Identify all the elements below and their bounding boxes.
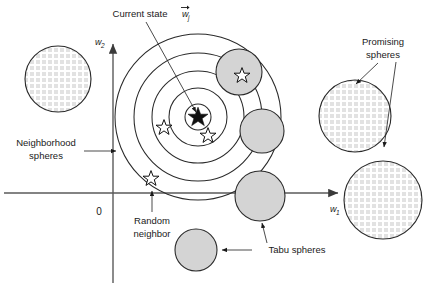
current-state-label: Current state [113, 8, 168, 19]
current-state-leader [146, 22, 196, 112]
figure-container: Current state w j Neighborhood spheres R… [0, 0, 431, 287]
neighborhood-spheres-label-line2: spheres [29, 150, 63, 161]
current-state-vector-symbol: w j [181, 6, 190, 22]
promising-spheres-leader-upper [356, 63, 378, 84]
random-neighbor-label-line1: Random [134, 215, 170, 226]
promising-sphere-right-upper[interactable] [319, 80, 391, 152]
tabu-sphere-upper[interactable] [216, 49, 262, 95]
promising-spheres-label-line1: Promising [362, 36, 404, 47]
tabu-search-diagram: Current state w j Neighborhood spheres R… [0, 0, 431, 287]
y-axis-label-subscript: 2 [100, 42, 105, 49]
origin-label: 0 [96, 206, 102, 217]
current-state-vector-sub: j [187, 14, 190, 22]
random-neighbor-star-3[interactable] [143, 171, 159, 186]
random-neighbor-star-2[interactable] [200, 128, 216, 143]
x-axis-label-group: w 1 [330, 204, 340, 216]
random-neighbor-label-line2: neighbor [134, 228, 171, 239]
tabu-sphere-middle[interactable] [240, 109, 284, 153]
promising-sphere-left[interactable] [25, 46, 91, 112]
promising-sphere-right-lower[interactable] [344, 161, 422, 239]
tabu-spheres-leader-vertical [262, 223, 267, 243]
tabu-spheres-label: Tabu spheres [268, 244, 325, 255]
neighborhood-spheres-label-line1: Neighborhood [16, 137, 76, 148]
y-axis-label-group: w 2 [95, 37, 105, 49]
tabu-sphere-lower[interactable] [235, 171, 285, 221]
current-state-star[interactable] [188, 107, 208, 125]
promising-spheres-label-line2: spheres [366, 49, 400, 60]
x-axis-label-subscript: 1 [336, 209, 340, 216]
tabu-sphere-bottom[interactable] [175, 229, 217, 271]
